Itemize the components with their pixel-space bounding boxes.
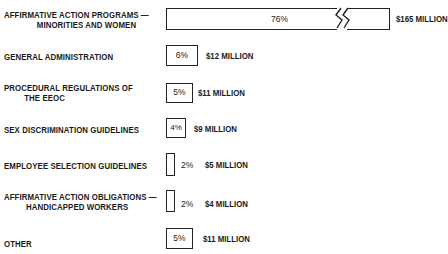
amount-other: $11 MILLION: [203, 234, 250, 244]
bar-percent: 4%: [170, 123, 182, 132]
label-line-1: PROCEDURAL REGULATIONS OF: [4, 83, 133, 93]
category-label-aa-handicapped: AFFIRMATIVE ACTION OBLIGATIONS — HANDICA…: [4, 192, 157, 212]
category-label-other: OTHER: [4, 239, 32, 249]
bar-aa-programs: 76%: [166, 8, 390, 30]
amount-general-admin: $12 MILLION: [206, 51, 253, 61]
bar-percent: 5%: [173, 233, 185, 243]
category-label-procedural-regs: PROCEDURAL REGULATIONS OF THE EEOC: [4, 83, 133, 103]
bar-general-admin: 6%: [166, 45, 198, 66]
category-label-general-admin: GENERAL ADMINISTRATION: [4, 52, 113, 62]
amount-aa-handicapped: $4 MILLION: [205, 199, 248, 209]
amount-employee-selection: $5 MILLION: [205, 160, 248, 170]
bar-procedural-regs: 5%: [166, 83, 193, 103]
bar-percent: 6%: [176, 50, 188, 60]
label-line-2: HANDICAPPED WORKERS: [4, 202, 157, 212]
label-line-2: THE EEOC: [4, 93, 133, 103]
bar-aa-handicapped: [166, 190, 175, 212]
bar-percent: 76%: [271, 14, 288, 24]
label-line-1: AFFIRMATIVE ACTION PROGRAMS —: [4, 10, 149, 20]
amount-procedural-regs: $11 MILLION: [198, 88, 245, 98]
bar-percent: 5%: [173, 87, 185, 97]
bar-employee-selection: [166, 153, 175, 176]
label-line-2: MINORITIES AND WOMEN: [4, 20, 149, 30]
percent-aa-handicapped: 2%: [181, 199, 193, 209]
bar-other: 5%: [166, 228, 193, 249]
percent-employee-selection: 2%: [181, 160, 193, 170]
label-line-1: AFFIRMATIVE ACTION OBLIGATIONS —: [4, 192, 157, 202]
category-label-aa-programs: AFFIRMATIVE ACTION PROGRAMS — MINORITIES…: [4, 10, 149, 30]
category-label-sex-discrimination: SEX DISCRIMINATION GUIDELINES: [4, 125, 139, 135]
category-label-employee-selection: EMPLOYEE SELECTION GUIDELINES: [4, 161, 147, 171]
bar-sex-discrimination: 4%: [166, 118, 186, 138]
amount-sex-discrimination: $9 MILLION: [194, 124, 237, 134]
axis-break-icon: [332, 7, 356, 31]
amount-aa-programs: $165 MILLION: [396, 14, 448, 24]
